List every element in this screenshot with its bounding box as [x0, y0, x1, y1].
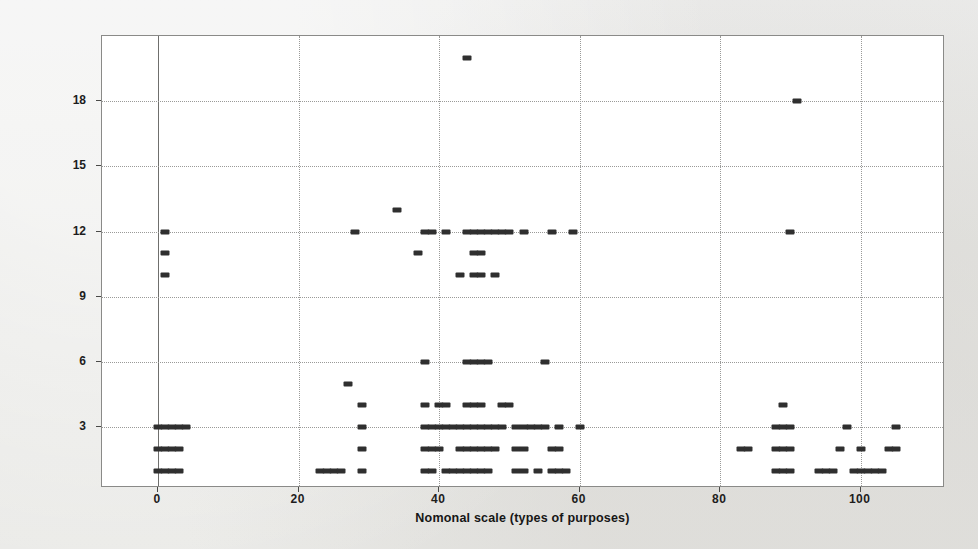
data-point	[744, 446, 753, 451]
y-tick-label-3: 3	[79, 419, 86, 433]
data-point	[343, 381, 352, 386]
gridline-x-0	[158, 36, 159, 486]
data-point	[561, 468, 570, 473]
data-point	[414, 251, 423, 256]
data-point	[505, 229, 514, 234]
data-point	[498, 425, 507, 430]
gridline-x-80	[720, 36, 721, 486]
x-tick-mark-40	[438, 487, 439, 492]
data-point	[828, 468, 837, 473]
gridline-y-9	[102, 297, 943, 298]
x-tick-label-60: 60	[572, 492, 586, 506]
gridline-x-100	[861, 36, 862, 486]
data-point	[786, 229, 795, 234]
y-tick-label-12: 12	[73, 224, 86, 238]
data-point	[463, 55, 472, 60]
data-point	[575, 425, 584, 430]
y-tick-label-6: 6	[79, 354, 86, 368]
y-tick-mark-18	[96, 100, 101, 101]
data-point	[435, 446, 444, 451]
data-point	[519, 468, 528, 473]
data-point	[491, 273, 500, 278]
data-point	[336, 468, 345, 473]
y-tick-mark-12	[96, 231, 101, 232]
data-point	[519, 446, 528, 451]
data-point	[161, 229, 170, 234]
data-point	[477, 403, 486, 408]
data-point	[428, 468, 437, 473]
data-point	[393, 207, 402, 212]
y-tick-mark-15	[96, 165, 101, 166]
data-point	[835, 446, 844, 451]
data-point	[357, 446, 366, 451]
data-point	[161, 273, 170, 278]
x-tick-label-80: 80	[712, 492, 726, 506]
data-point	[505, 403, 514, 408]
data-point	[786, 425, 795, 430]
data-point	[357, 468, 366, 473]
data-point	[568, 229, 577, 234]
data-point	[891, 446, 900, 451]
y-tick-mark-9	[96, 296, 101, 297]
data-point	[554, 446, 563, 451]
data-point	[891, 425, 900, 430]
y-tick-mark-6	[96, 361, 101, 362]
data-point	[540, 425, 549, 430]
x-tick-label-20: 20	[291, 492, 305, 506]
x-tick-mark-20	[298, 487, 299, 492]
data-point	[540, 359, 549, 364]
data-point	[484, 468, 493, 473]
gridline-x-40	[439, 36, 440, 486]
data-point	[554, 425, 563, 430]
x-tick-mark-0	[157, 487, 158, 492]
data-point	[442, 403, 451, 408]
x-tick-label-40: 40	[431, 492, 445, 506]
scatter-chart-figure: 020406080100 369121518 Nomonal scale (ty…	[38, 28, 946, 510]
gridline-y-18	[102, 101, 943, 102]
data-point	[442, 229, 451, 234]
plot-area	[101, 35, 944, 487]
data-point	[428, 229, 437, 234]
data-point	[421, 359, 430, 364]
data-point	[357, 425, 366, 430]
x-tick-mark-100	[860, 487, 861, 492]
data-point	[161, 251, 170, 256]
data-point	[477, 251, 486, 256]
y-tick-label-15: 15	[73, 158, 86, 172]
y-tick-label-18: 18	[73, 93, 86, 107]
data-point	[786, 468, 795, 473]
gridline-x-60	[580, 36, 581, 486]
data-point	[175, 446, 184, 451]
data-point	[175, 468, 184, 473]
x-tick-label-0: 0	[154, 492, 161, 506]
data-point	[519, 229, 528, 234]
y-tick-mark-3	[96, 426, 101, 427]
x-tick-mark-60	[579, 487, 580, 492]
x-axis-title: Nomonal scale (types of purposes)	[101, 511, 944, 525]
data-point	[491, 446, 500, 451]
data-point	[547, 229, 556, 234]
data-point	[182, 425, 191, 430]
y-tick-label-9: 9	[79, 289, 86, 303]
data-point	[456, 273, 465, 278]
data-point	[877, 468, 886, 473]
x-tick-mark-80	[719, 487, 720, 492]
data-point	[856, 446, 865, 451]
data-point	[477, 273, 486, 278]
gridline-x-20	[299, 36, 300, 486]
data-point	[484, 359, 493, 364]
data-point	[421, 403, 430, 408]
gridline-y-6	[102, 362, 943, 363]
data-point	[779, 403, 788, 408]
x-tick-label-100: 100	[849, 492, 871, 506]
data-point	[533, 468, 542, 473]
data-point	[842, 425, 851, 430]
data-point	[786, 446, 795, 451]
data-point	[793, 99, 802, 104]
data-point	[350, 229, 359, 234]
gridline-y-15	[102, 166, 943, 167]
data-point	[357, 403, 366, 408]
